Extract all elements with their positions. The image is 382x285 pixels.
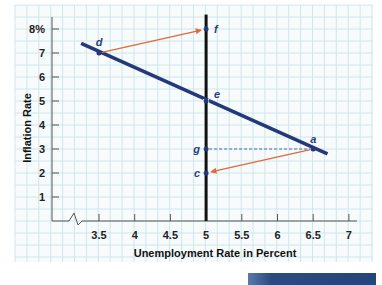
point-d xyxy=(97,51,102,56)
y-tick-label: 1 xyxy=(39,191,45,203)
x-tick-label: 4.5 xyxy=(163,229,178,241)
point-a xyxy=(311,147,316,152)
phillips-curve-chart: 12345678%3.544.555.566.57Unemployment Ra… xyxy=(0,0,382,285)
y-tick-label: 8% xyxy=(29,23,45,35)
x-tick-label: 5 xyxy=(203,229,209,241)
point-g xyxy=(204,147,209,152)
x-axis-title: Unemployment Rate in Percent xyxy=(134,247,297,259)
y-tick-label: 6 xyxy=(39,71,45,83)
y-tick-label: 2 xyxy=(39,167,45,179)
point-e xyxy=(204,99,209,104)
point-label-e: e xyxy=(214,88,220,100)
point-label-d: d xyxy=(96,36,103,48)
x-tick-label: 7 xyxy=(346,229,352,241)
y-tick-label: 7 xyxy=(39,47,45,59)
x-tick-label: 4 xyxy=(132,229,139,241)
point-label-a: a xyxy=(310,133,316,145)
y-tick-label: 3 xyxy=(39,143,45,155)
point-f xyxy=(204,27,209,32)
point-label-c: c xyxy=(194,167,200,179)
point-c xyxy=(204,171,209,176)
x-tick-label: 3.5 xyxy=(91,229,106,241)
y-axis-title: Inflation Rate xyxy=(21,93,33,163)
y-tick-label: 5 xyxy=(39,95,45,107)
x-tick-label: 6 xyxy=(274,229,280,241)
x-tick-label: 5.5 xyxy=(234,229,249,241)
y-tick-label: 4 xyxy=(39,119,46,131)
point-label-g: g xyxy=(192,143,200,155)
x-tick-label: 6.5 xyxy=(306,229,321,241)
footer-bar xyxy=(248,273,376,285)
